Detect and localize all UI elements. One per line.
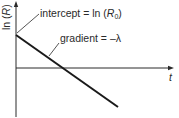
decay-line: [16, 35, 118, 107]
y-axis-arrow-icon: [14, 1, 18, 7]
x-axis-arrow-icon: [168, 66, 174, 70]
gradient-label: gradient = –λ: [60, 32, 122, 44]
y-axis-label: ln (R): [0, 4, 12, 30]
intercept-leader: [17, 14, 39, 33]
gradient-leader: [49, 43, 59, 56]
intercept-label: intercept = ln (R0): [40, 7, 122, 20]
decay-graph: ln (R) t intercept = ln (R0) gradient = …: [0, 0, 179, 118]
x-axis-label: t: [169, 71, 173, 83]
